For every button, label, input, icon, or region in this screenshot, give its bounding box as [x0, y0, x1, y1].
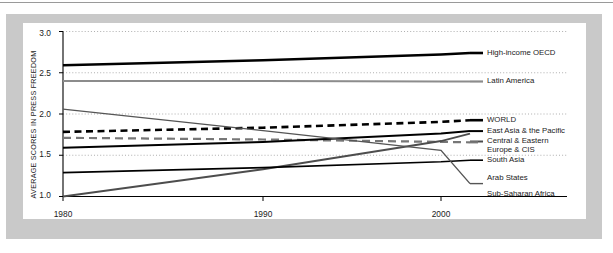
series-label-east-asia-pacific: East Asia & the Pacific [487, 127, 565, 136]
figure-root: AVERAGE SCORES IN PRESS FREEDOM 3.0 2.5 … [0, 0, 613, 253]
series-label-central-eastern-europe-cis: Central & Eastern Europe & CIS [487, 137, 549, 154]
series-line-world [63, 120, 470, 132]
series-label-latin-america: Latin America [487, 77, 534, 86]
label-leader-lines [470, 53, 483, 184]
series-line-latin-america [63, 81, 470, 82]
series-label-arab-states: Arab States [487, 174, 528, 183]
series-label-world: WORLD [487, 116, 516, 125]
series-line-central-eastern-europe-cis [63, 134, 470, 197]
series-label-high-income-oecd: High-income OECD [487, 49, 555, 58]
series-label-south-asia: South Asia [487, 156, 524, 165]
series-line-high-income-oecd [63, 53, 470, 65]
series-label-sub-saharan-africa: Sub-Saharan Africa [487, 190, 555, 199]
series-line-arab-states [63, 160, 470, 172]
press-freedom-line-chart: AVERAGE SCORES IN PRESS FREEDOM 3.0 2.5 … [0, 0, 613, 253]
